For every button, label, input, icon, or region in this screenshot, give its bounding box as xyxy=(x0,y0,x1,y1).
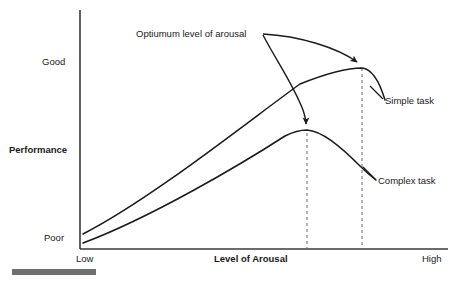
optimum-arrow-to-complex xyxy=(263,35,306,124)
series-label-simple-task: Simple task xyxy=(385,96,434,106)
optimum-arrow-to-simple xyxy=(263,34,357,62)
footer-rule xyxy=(12,269,96,275)
arousal-performance-chart: Good Poor Performance Low High Level of … xyxy=(0,0,458,283)
y-axis-title: Performance xyxy=(9,145,67,155)
optimum-level-annotation: Optiumum level of arousal xyxy=(136,29,246,39)
simple-task-curve xyxy=(83,68,385,234)
series-label-complex-task: Complex task xyxy=(378,176,436,186)
chart-canvas xyxy=(0,0,458,283)
y-tick-good: Good xyxy=(42,57,65,67)
x-tick-high: High xyxy=(422,254,442,264)
y-tick-poor: Poor xyxy=(44,233,64,243)
x-tick-low: Low xyxy=(76,254,93,264)
complex-task-curve xyxy=(83,130,376,243)
complex-task-leader xyxy=(363,167,376,180)
x-axis-title: Level of Arousal xyxy=(214,254,288,264)
